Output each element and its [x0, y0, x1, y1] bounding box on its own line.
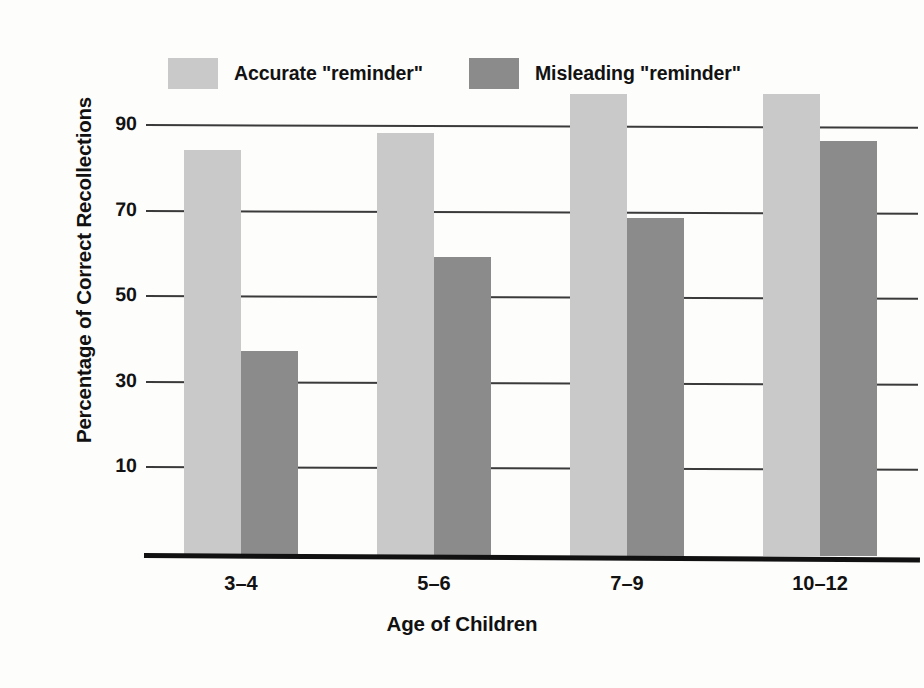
- y-tick-label-50: 50: [115, 283, 137, 306]
- plot-area: 9070503010: [146, 90, 918, 556]
- x-tick-label-3–4: 3–4: [224, 572, 257, 595]
- x-tick-label-5–6: 5–6: [417, 572, 450, 595]
- x-tick-label-10–12: 10–12: [792, 572, 848, 595]
- x-tick-label-7–9: 7–9: [610, 572, 643, 595]
- legend-swatch-misleading: [469, 58, 519, 89]
- bar-misleading-3–4: [241, 351, 298, 556]
- bar-misleading-5–6: [434, 257, 491, 556]
- bar-chart-figure: Accurate "reminder" Misleading "reminder…: [0, 0, 924, 688]
- y-tick-label-90: 90: [115, 112, 137, 135]
- legend-label-accurate: Accurate "reminder": [234, 62, 423, 85]
- legend-entry-misleading: Misleading "reminder": [469, 58, 741, 89]
- y-axis-title: Percentage of Correct Recollections: [62, 35, 106, 505]
- y-tick-label-10: 10: [115, 454, 137, 477]
- bar-misleading-7–9: [627, 218, 684, 556]
- bar-accurate-3–4: [184, 150, 241, 556]
- bar-accurate-7–9: [570, 94, 627, 556]
- x-axis-title: Age of Children: [0, 612, 924, 636]
- y-tick-label-30: 30: [115, 369, 137, 392]
- chart-legend: Accurate "reminder" Misleading "reminder…: [168, 56, 741, 90]
- legend-label-misleading: Misleading "reminder": [535, 62, 741, 85]
- bar-accurate-10–12: [763, 94, 820, 556]
- y-tick-label-70: 70: [115, 198, 137, 221]
- bar-misleading-10–12: [820, 141, 877, 556]
- bars-group: [146, 90, 918, 556]
- bar-accurate-5–6: [377, 133, 434, 556]
- legend-entry-accurate: Accurate "reminder": [168, 58, 423, 89]
- legend-swatch-accurate: [168, 58, 218, 89]
